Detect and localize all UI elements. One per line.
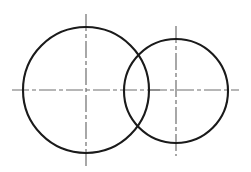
technical-drawing-figure (0, 0, 251, 172)
drawing-canvas (0, 0, 251, 172)
canvas-background (0, 0, 251, 172)
